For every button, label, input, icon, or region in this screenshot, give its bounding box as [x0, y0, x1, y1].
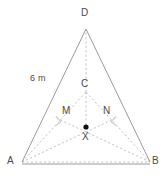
edge-BD	[86, 29, 150, 162]
vertex-label-c: C	[81, 79, 88, 89]
edge-BM	[54, 117, 150, 162]
edge-BC	[86, 92, 150, 162]
vertex-label-d: D	[81, 8, 88, 18]
edge-AN	[22, 117, 118, 162]
geometry-canvas	[0, 0, 164, 180]
geometry-figure: D C M N X A B 6 m	[0, 0, 164, 180]
hidden-edges-group	[22, 29, 150, 162]
point-label-m: M	[62, 106, 71, 116]
vertex-label-b: B	[152, 156, 159, 166]
point-label-x: X	[82, 132, 89, 142]
vertex-label-a: A	[7, 156, 14, 166]
edge-AC	[22, 92, 86, 162]
edge-measure-label: 6 m	[30, 74, 46, 83]
edge-AD	[22, 29, 86, 162]
point-label-n: N	[103, 106, 110, 116]
centre-point-x-marker	[83, 124, 88, 129]
